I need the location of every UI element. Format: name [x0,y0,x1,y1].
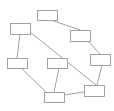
node-box-f [91,55,111,66]
edge-a-c [51,20,80,30]
edge-g-h [64,92,84,95]
edge-f-h [97,65,102,85]
node-box-b [11,24,31,35]
edge-b-d [17,34,20,58]
graph-diagram [0,0,114,111]
node-box-a [38,11,58,21]
node-box-h [85,86,105,97]
node-box-d [8,59,28,69]
node-box-c [71,31,91,42]
node-box-e [48,59,68,69]
node-box-g [45,93,65,103]
nodes-group [8,11,111,103]
edge-d-g [21,68,46,92]
edge-e-g [54,68,59,92]
edge-c-f [88,41,100,54]
